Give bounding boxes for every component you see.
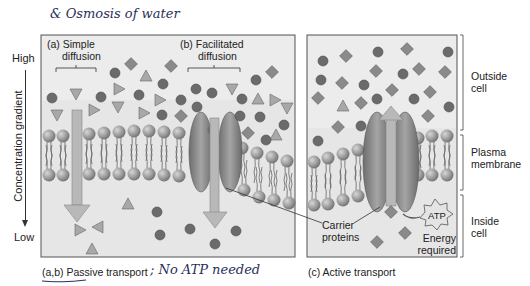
- atp-label: ATP: [428, 210, 446, 221]
- simple-diffusion-label: (a) Simple diffusion: [47, 38, 101, 62]
- energy-required-label: Energy required: [416, 232, 456, 256]
- plasma-membrane-label: Plasma membrane: [471, 146, 521, 170]
- carrier-proteins-label: Carrier proteins: [322, 219, 359, 243]
- active-transport-caption: (c) Active transport: [308, 266, 396, 278]
- passive-transport-caption: (a,b) Passive transport: [42, 266, 148, 278]
- facilitated-diffusion-label: (b) Facilitated diffusion: [180, 38, 244, 62]
- handwritten-annotation-no-atp: ; No ATP needed: [150, 262, 260, 277]
- inside-cell-label: Inside cell: [471, 215, 499, 239]
- outside-cell-label: Outside cell: [471, 70, 507, 94]
- active-carrier-protein: [363, 106, 419, 212]
